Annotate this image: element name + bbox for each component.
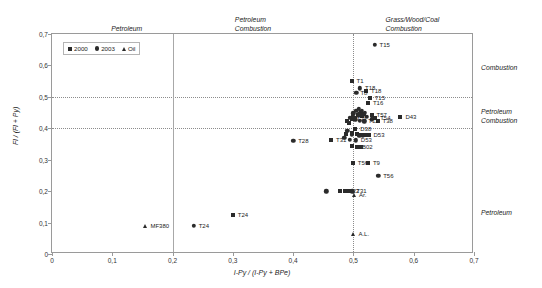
gridline-horizontal: [52, 128, 472, 129]
x-axis-tick-label: 0,7: [469, 257, 478, 264]
data-point-label: MF380: [150, 223, 169, 229]
zone-label-top: Grass/Wood/Coal Combustion: [386, 16, 440, 33]
data-point-circle: [348, 138, 352, 142]
x-axis-tick-label: 0,1: [108, 257, 117, 264]
x-axis-tick-mark: [293, 252, 294, 256]
zone-label-right: Petroleum: [481, 209, 512, 218]
data-point-square: [398, 115, 402, 119]
data-point-circle: [354, 138, 358, 142]
y-axis-tick-mark: [48, 97, 52, 98]
data-point-label: A.L.: [358, 231, 369, 237]
data-point-triangle: [143, 224, 147, 228]
data-point-square: [338, 189, 342, 193]
x-axis-tick-mark: [52, 252, 53, 256]
zone-label-right: Combustion: [481, 64, 517, 73]
data-point-square: [350, 144, 354, 148]
data-point-label: T16: [373, 100, 383, 106]
circle-marker-icon: [95, 46, 99, 50]
legend-label: 2000: [74, 45, 88, 52]
chart-legend: 2000 2003 Oil: [63, 42, 140, 55]
x-axis-tick-mark: [233, 252, 234, 256]
gridline-horizontal: [52, 97, 472, 98]
x-axis-tick-label: 0,4: [289, 257, 298, 264]
y-axis-tick-label: 0,1: [39, 219, 48, 226]
data-point-circle: [376, 174, 380, 178]
data-point-label: T11: [368, 118, 378, 124]
data-point-label: D53: [361, 137, 372, 143]
data-point-label: T24: [238, 212, 248, 218]
data-point-square: [347, 121, 351, 125]
legend-item-2003: 2003: [95, 45, 115, 52]
x-axis-tick-mark: [353, 252, 354, 256]
y-axis-tick-mark: [48, 65, 52, 66]
zone-label-right: Petroleum Combustion: [481, 108, 517, 125]
data-point-label: T9: [373, 160, 380, 166]
data-point-circle: [354, 91, 358, 95]
y-axis-tick-label: 0,2: [39, 188, 48, 195]
data-point-label: T38: [383, 118, 393, 124]
data-point-label: T24: [199, 223, 209, 229]
square-marker-icon: [68, 47, 72, 51]
data-point-label: B02: [362, 144, 373, 150]
x-axis-tick-mark: [414, 252, 415, 256]
gridline-vertical: [173, 34, 174, 252]
chart-root: Fl / (Fl + Py) I-Py / (I-Py + BPe) Petro…: [0, 0, 542, 288]
triangle-marker-icon: [122, 47, 126, 51]
y-axis-tick-mark: [48, 223, 52, 224]
data-point-label: Ar.: [359, 192, 366, 198]
data-point-label: D53: [374, 132, 385, 138]
legend-label: 2003: [101, 45, 115, 52]
y-axis-tick-mark: [48, 191, 52, 192]
data-point-label: T8: [360, 90, 367, 96]
x-axis-tick-label: 0,2: [168, 257, 177, 264]
data-point-square: [368, 96, 372, 100]
gridline-vertical: [353, 34, 354, 252]
x-axis-title: I-Py / (I-Py + BPe): [234, 269, 291, 276]
y-axis-tick-label: 0,3: [39, 156, 48, 163]
data-point-circle: [372, 43, 376, 47]
data-point-square: [351, 161, 355, 165]
x-axis-tick-label: 0,3: [228, 257, 237, 264]
y-axis-tick-mark: [48, 34, 52, 35]
data-point-square: [366, 101, 370, 105]
zone-label-top: Petroleum Combustion: [235, 16, 271, 33]
data-point-circle: [345, 129, 349, 133]
x-axis-tick-label: 0,5: [349, 257, 358, 264]
data-point-square: [231, 213, 235, 217]
x-axis-tick-mark: [474, 252, 475, 256]
data-point-triangle: [352, 193, 356, 197]
data-point-label: T56: [383, 173, 393, 179]
y-axis-tick-label: 0,7: [39, 31, 48, 38]
legend-item-2000: 2000: [68, 45, 88, 52]
data-point-label: T1: [357, 78, 364, 84]
y-axis-title: Fl / (Fl + Py): [12, 107, 19, 145]
data-point-circle: [362, 119, 366, 123]
data-point-triangle: [351, 232, 355, 236]
x-axis-tick-label: 0: [50, 257, 54, 264]
x-axis-tick-label: 0,6: [409, 257, 418, 264]
y-axis-tick-mark: [48, 160, 52, 161]
x-axis-tick-mark: [112, 252, 113, 256]
legend-item-oil: Oil: [122, 45, 136, 52]
data-point-label: D43: [405, 114, 416, 120]
data-point-circle: [291, 139, 295, 143]
data-point-square: [329, 138, 333, 142]
y-axis-tick-label: 0,6: [39, 62, 48, 69]
data-point-label: D38: [360, 126, 371, 132]
legend-label: Oil: [128, 45, 136, 52]
data-point-circle: [324, 189, 328, 193]
data-point-square: [350, 79, 354, 83]
data-point-label: T28: [298, 138, 308, 144]
y-axis-tick-label: 0,4: [39, 125, 48, 132]
data-point-label: T15: [380, 42, 390, 48]
data-point-circle: [191, 224, 195, 228]
y-axis-tick-label: 0,5: [39, 93, 48, 100]
data-point-square: [359, 145, 363, 149]
plot-area: 00,10,20,30,40,50,60,700,10,20,30,40,50,…: [51, 33, 473, 253]
x-axis-tick-mark: [173, 252, 174, 256]
y-axis-tick-mark: [48, 128, 52, 129]
data-point-square: [366, 161, 370, 165]
